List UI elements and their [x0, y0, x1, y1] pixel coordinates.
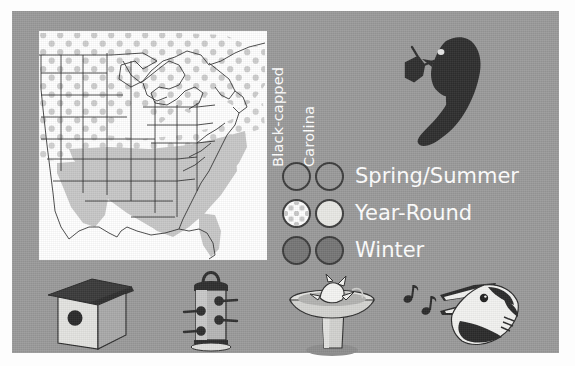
legend-row-spring-summer: Spring/Summer: [282, 158, 519, 195]
chickadee-silhouette: [404, 35, 514, 155]
birdhouse-entrance-hole: [68, 310, 83, 326]
swatch-black-capped-year-round: [282, 199, 311, 228]
singing-bird-icon-svg: [400, 277, 520, 352]
bird-head: [440, 283, 518, 344]
figure-panel: Black-capped Carolina Spring/Summer Year…: [12, 11, 559, 353]
bird-eye: [480, 294, 488, 302]
chickadee-silhouette-svg: [404, 35, 514, 155]
chickadee-eye-highlight: [438, 49, 445, 55]
birdbath-icon-svg: [280, 274, 385, 356]
swatch-carolina-winter: [315, 236, 344, 265]
legend-row-year-round: Year-Round: [282, 195, 472, 232]
bathing-bird: [310, 274, 354, 303]
singing-bird-icon: [400, 277, 520, 352]
legend-label-year-round: Year-Round: [355, 203, 472, 224]
birdhouse-icon-svg: [40, 273, 140, 355]
birdbath-icon: [280, 274, 385, 356]
swatch-black-capped-winter: [282, 236, 311, 265]
swatch-black-capped-spring-summer: [282, 162, 311, 191]
legend-row-winter: Winter: [282, 232, 424, 269]
swatch-carolina-spring-summer: [315, 162, 344, 191]
legend-column-black-capped: Black-capped: [270, 67, 286, 167]
music-notes-icon: [402, 285, 436, 316]
range-map-svg: [39, 31, 267, 260]
bird-feeder-icon-svg: [175, 263, 245, 358]
chickadee-range-map: [39, 31, 267, 260]
swatch-carolina-year-round: [315, 199, 344, 228]
legend-label-winter: Winter: [355, 240, 424, 261]
bird-feeder-icon: [175, 263, 245, 358]
legend-label-spring-summer: Spring/Summer: [355, 166, 519, 187]
birdhouse-icon: [40, 273, 140, 355]
figure-root: Black-capped Carolina Spring/Summer Year…: [0, 0, 575, 366]
